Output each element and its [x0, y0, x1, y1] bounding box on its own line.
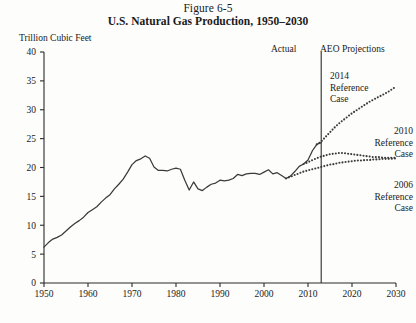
series-dot — [375, 156, 377, 158]
series-dot — [366, 159, 368, 161]
series-dot — [384, 157, 386, 159]
y-axis-tick-label: 40 — [27, 47, 37, 57]
series-dot — [375, 158, 377, 160]
series-dot — [314, 167, 316, 169]
series-dot — [323, 165, 325, 167]
series-dot — [317, 157, 319, 159]
series-dot — [329, 153, 331, 155]
series-dot — [377, 96, 379, 98]
series-dot — [305, 162, 307, 164]
series-dot — [372, 158, 374, 160]
series-dot — [332, 153, 334, 155]
series-dot — [288, 176, 290, 178]
series-dot — [323, 138, 325, 140]
y-axis-tick-label: 5 — [31, 250, 36, 260]
series-dot — [318, 142, 320, 144]
series-dot — [393, 157, 395, 159]
series-dot — [341, 152, 343, 154]
series-dot — [378, 158, 380, 160]
series-dot — [320, 156, 322, 158]
x-axis-tick-label: 2020 — [343, 289, 362, 299]
series-dot — [366, 102, 368, 104]
x-axis-tick-label: 2010 — [299, 289, 318, 299]
series-dot — [390, 89, 392, 91]
y-axis-tick-label: 20 — [27, 163, 37, 173]
series-dot — [387, 157, 389, 159]
series-dot — [308, 161, 310, 163]
series-dot — [369, 159, 371, 161]
y-axis-tick-label: 0 — [31, 278, 36, 288]
series-dot — [323, 155, 325, 157]
series-dot — [285, 177, 287, 179]
series-dot — [360, 160, 362, 162]
series-dot — [325, 135, 327, 137]
series-dot — [350, 113, 352, 115]
series-dot — [359, 154, 361, 156]
series-dot — [314, 158, 316, 160]
series-dot — [335, 152, 337, 154]
series-dot — [294, 174, 296, 176]
chart-series-group — [44, 87, 396, 247]
series-dot — [380, 95, 382, 97]
y-axis-tick-label: 30 — [27, 105, 37, 115]
series-dot — [350, 153, 352, 155]
series-dot — [353, 153, 355, 155]
series-dot — [374, 98, 376, 100]
series-dot — [390, 157, 392, 159]
series-dot — [362, 155, 364, 157]
series-dots-2014-reference-case — [316, 87, 395, 145]
series-dot — [335, 162, 337, 164]
series-dot — [369, 155, 371, 157]
y-axis-tick-label: 10 — [27, 221, 37, 231]
y-axis-tick-label: 15 — [27, 192, 37, 202]
y-axis: 0510152025303540 — [27, 47, 45, 288]
series-dot — [348, 161, 350, 163]
series-dot — [366, 155, 368, 157]
series-dot — [327, 133, 329, 135]
series-dot — [329, 131, 331, 133]
series-dot — [317, 167, 319, 169]
series-dot — [326, 154, 328, 156]
series-dot — [332, 163, 334, 165]
series-dot — [344, 152, 346, 154]
series-dot — [393, 87, 395, 89]
series-dot — [372, 156, 374, 158]
series-dot — [336, 124, 338, 126]
series-dot — [385, 92, 387, 94]
series-dot — [308, 169, 310, 171]
series-dot — [320, 166, 322, 168]
y-axis-ticks: 0510152025303540 — [27, 47, 45, 288]
x-axis-tick-label: 1980 — [167, 289, 186, 299]
series-dot — [345, 161, 347, 163]
series-dot — [311, 168, 313, 170]
series-dot — [354, 160, 356, 162]
series-dot — [338, 122, 340, 124]
series-dot — [338, 152, 340, 154]
series-dot — [356, 154, 358, 156]
series-dot — [388, 90, 390, 92]
series-dot — [353, 111, 355, 113]
series-dot — [329, 164, 331, 166]
series-dot — [381, 157, 383, 159]
series-dot — [363, 159, 365, 161]
series-dot — [356, 109, 358, 111]
series-dot — [296, 173, 298, 175]
series-dot — [303, 163, 305, 165]
series-dot — [305, 170, 307, 172]
series-line-actual — [44, 143, 321, 248]
series-dot — [378, 156, 380, 158]
series-dots-2006-reference-case — [285, 157, 396, 179]
series-dot — [326, 164, 328, 166]
series-dot — [347, 153, 349, 155]
series-dot — [369, 101, 371, 103]
series-dot — [331, 129, 333, 131]
series-dot — [351, 160, 353, 162]
series-dot — [357, 160, 359, 162]
series-dot — [363, 104, 365, 106]
x-axis-tick-label: 2030 — [387, 289, 406, 299]
x-axis-tick-label: 2000 — [255, 289, 274, 299]
y-axis-tick-label: 25 — [27, 134, 37, 144]
series-dot — [361, 106, 363, 108]
series-dot — [382, 93, 384, 95]
series-dot — [334, 126, 336, 128]
